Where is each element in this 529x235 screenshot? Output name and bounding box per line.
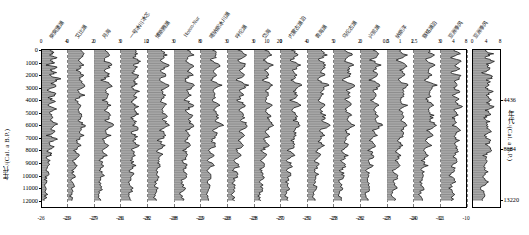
panel-label-1: 柴窝堡湖 [47, 19, 65, 40]
left-axis-tick: 4000 [8, 96, 38, 103]
proxy-panel-2 [68, 50, 93, 207]
left-axis-tick: 5000 [8, 109, 38, 116]
panel-label-7: 喀纳斯冰川湖 [207, 11, 231, 40]
bottom-tick: -28 [219, 215, 237, 221]
panel-label-6: Hoton-Nur [182, 15, 200, 38]
proxy-panel-12 [334, 50, 359, 207]
top-tick: 0 [167, 38, 181, 44]
top-tick: 0 [141, 38, 155, 44]
top-tick: 0 [34, 38, 48, 44]
top-axis-line [41, 49, 466, 50]
proxy-panel-11 [308, 50, 333, 207]
left-tickmark [39, 100, 42, 101]
left-axis-tick: 1000 [8, 59, 38, 66]
left-tickmark [39, 75, 42, 76]
top-tick: 0 [274, 38, 288, 44]
proxy-panel-4 [121, 50, 146, 207]
top-tick: 0 [354, 38, 368, 44]
left-axis-tick: 10000 [8, 172, 38, 179]
panel-label-12: 乌伦古湖 [340, 19, 358, 40]
right-panel-bottom-line [472, 207, 500, 208]
left-tickmark [39, 113, 42, 114]
bottom-tick: -28 [378, 215, 396, 221]
top-tick: 0 [61, 38, 75, 44]
left-tickmark [39, 176, 42, 177]
left-tickmark [39, 188, 42, 189]
left-tickmark [39, 125, 42, 126]
proxy-panel-6 [174, 50, 199, 207]
bottom-tick: -30 [299, 215, 317, 221]
proxy-panel-3 [94, 50, 119, 207]
bottom-tick: -29 [192, 215, 210, 221]
left-axis-tick: 3000 [8, 84, 38, 91]
right-panel-right-line [500, 49, 501, 208]
top-tick: 0 [194, 38, 208, 44]
proxy-panel-13 [361, 50, 386, 207]
right-axis-line [466, 49, 467, 208]
left-tickmark [39, 201, 42, 202]
bottom-tick: -26 [32, 215, 50, 221]
panel-label-10: 内蒙古湖泊 [287, 15, 308, 40]
left-tickmark [39, 150, 42, 151]
bottom-tick: -28 [325, 215, 343, 221]
right-axis-title: 年代/(Cal. a B.P.) [505, 110, 515, 220]
left-axis-line [41, 49, 42, 208]
bottom-tick: -28 [245, 215, 263, 221]
bottom-tick: -20 [405, 215, 423, 221]
proxy-panel-16 [441, 50, 466, 207]
left-axis-tick: 11000 [8, 184, 38, 191]
bottom-tick: -32 [139, 215, 157, 221]
top-tick: 4 [480, 38, 492, 44]
panel-divider [467, 50, 468, 207]
top-tick: 0 [114, 38, 128, 44]
figure-root: 年代/(Cal. a B.P.) 01000200030004000500060… [0, 0, 529, 235]
bottom-tick: -31 [112, 215, 130, 221]
top-tick: 0 [221, 38, 235, 44]
panel-label-5: 博斯腾湖 [154, 19, 172, 40]
left-tickmark [39, 50, 42, 51]
top-tick: 0 [327, 38, 341, 44]
bottom-tick: -29 [85, 215, 103, 221]
proxy-panel-1 [41, 50, 66, 207]
panel-label-16: 亚洲季风 [447, 19, 465, 40]
panel-label-17: 亚洲季风 [471, 19, 489, 40]
top-tick: 0 [87, 38, 101, 44]
top-tick: 0 [301, 38, 315, 44]
left-tickmark [39, 63, 42, 64]
proxy-panel-15 [414, 50, 439, 207]
left-axis-tick: 6000 [8, 121, 38, 128]
left-tickmark [39, 138, 42, 139]
proxy-panel-7 [201, 50, 226, 207]
left-axis-tick: 7000 [8, 134, 38, 141]
right-tickmark [500, 100, 503, 101]
left-axis-tick: 0 [8, 46, 38, 53]
panel-label-3: 月海 [100, 27, 112, 40]
proxy-panel-8 [228, 50, 253, 207]
left-tickmark [39, 163, 42, 164]
proxy-panel-10 [281, 50, 306, 207]
top-tick: 1.5 [407, 38, 421, 44]
bottom-tick: -21 [432, 215, 450, 221]
left-tickmark [39, 88, 42, 89]
bottom-tick: -10 [457, 215, 475, 221]
left-axis-tick: 8000 [8, 146, 38, 153]
panel-label-15: 察格湖泊 [420, 19, 438, 40]
bottom-tick: -32 [352, 215, 370, 221]
panel-label-4: 一号冰川冰芯 [127, 11, 151, 40]
left-axis-tick: 2000 [8, 71, 38, 78]
top-tick: 8 [494, 38, 506, 44]
proxy-panel-14 [387, 50, 412, 207]
left-axis-tick: 12000 [8, 197, 38, 204]
bottom-tick: -30 [272, 215, 290, 221]
bottom-tick: -29 [59, 215, 77, 221]
proxy-panel-5 [148, 50, 173, 207]
left-axis-tick: 9000 [8, 159, 38, 166]
proxy-panel-9 [254, 50, 279, 207]
proxy-panel-17 [472, 50, 500, 207]
right-panel-top-line [472, 49, 500, 50]
bottom-tick: -18 [165, 215, 183, 221]
right-panel-left-line [472, 49, 473, 208]
right-tickmark [500, 200, 503, 201]
right-axis-tick: 4436 [504, 96, 516, 103]
top-tick: 0 [466, 38, 478, 44]
